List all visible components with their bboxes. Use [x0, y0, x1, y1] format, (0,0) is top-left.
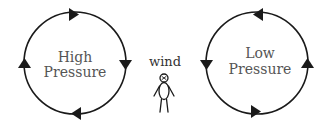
high-pressure-system: High Pressure [18, 8, 132, 120]
arrow-up-icon [18, 58, 31, 68]
high-pressure-label-line1: High [58, 49, 93, 65]
wind-label: wind [149, 54, 181, 69]
low-pressure-label-line1: Low [245, 45, 275, 61]
person-icon [154, 74, 174, 112]
low-pressure-system: Low Pressure [200, 8, 314, 118]
arrow-up-icon [301, 58, 314, 68]
pressure-wind-diagram: High Pressure wind Low Pressure [0, 0, 326, 123]
wind-group: wind [149, 54, 181, 112]
high-pressure-label-line2: Pressure [44, 64, 107, 80]
arrow-left-icon [253, 8, 263, 21]
arrow-right-icon [69, 8, 79, 21]
arrow-left-icon [71, 107, 81, 120]
low-pressure-label-line2: Pressure [229, 61, 292, 77]
arrow-down-icon [200, 60, 213, 70]
arrow-down-icon [119, 60, 132, 70]
arrow-right-icon [251, 105, 261, 118]
